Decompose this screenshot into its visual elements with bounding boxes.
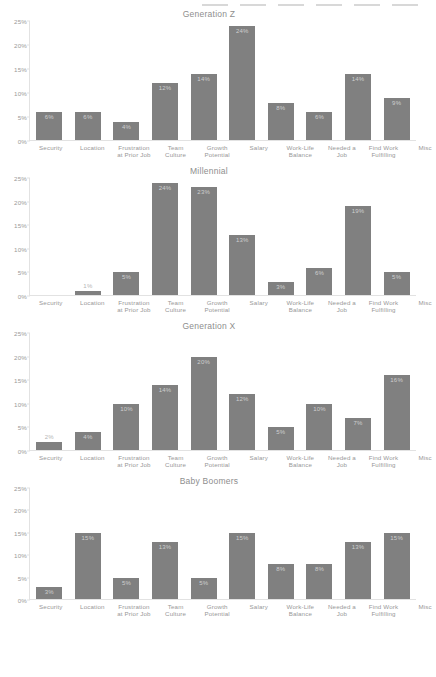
bar-slot: 6% [69,21,108,141]
x-axis-tick-label: Work-Life Balance [280,451,322,473]
bar-value-label: 2% [45,434,54,440]
bar[interactable]: 5% [191,578,217,600]
x-axis-tick-label: Work-Life Balance [280,141,322,163]
bar[interactable]: 15% [384,533,410,600]
bar-value-label: 1% [83,283,92,289]
bar-slot: 8% [262,488,301,600]
bar[interactable]: 20% [191,357,217,451]
y-axis-tick-label: 5% [18,424,27,431]
x-axis-tick-label: Growth Potential [196,451,238,473]
bar-value-label: 23% [197,189,210,195]
bar[interactable]: 5% [384,272,410,296]
chart-panel: Generation X0%5%10%15%20%25%2%4%10%14%20… [0,318,418,473]
bar[interactable]: 6% [36,112,62,141]
bar-value-label: 15% [82,535,95,541]
bar-value-label: 15% [390,535,403,541]
y-axis-tick-label: 5% [18,574,27,581]
bar-value-label: 7% [354,420,363,426]
bar[interactable]: 8% [268,564,294,600]
x-axis-tick-label: Security [30,141,72,163]
bar-slot: 5% [262,333,301,451]
x-axis-tick-label: Salary [238,451,280,473]
bar[interactable]: 3% [36,587,62,600]
bar[interactable]: 5% [113,578,139,600]
bar-slot: 10% [107,333,146,451]
x-axis-line [30,599,416,600]
bar[interactable]: 5% [113,272,139,296]
bar[interactable]: 23% [191,187,217,296]
bars-container: 2%4%10%14%20%12%5%10%7%16% [30,333,416,451]
y-axis-tick-label: 25% [14,18,27,25]
y-axis-tick-label: 15% [14,529,27,536]
x-axis-tick-label: Needed a Job [321,600,363,622]
bar[interactable]: 14% [345,74,371,141]
bar[interactable]: 15% [75,533,101,600]
chart-title: Generation X [0,318,418,333]
bar-value-label: 10% [313,406,326,412]
bar-value-label: 12% [236,396,249,402]
bar-value-label: 5% [122,274,131,280]
bar-slot: 20% [184,333,223,451]
bar-value-label: 20% [197,359,210,365]
bar[interactable]: 3% [268,282,294,296]
bar[interactable]: 12% [152,83,178,141]
x-axis-labels: SecurityLocationFrustration at Prior Job… [30,451,436,473]
bar[interactable]: 6% [75,112,101,141]
bar-value-label: 14% [197,76,210,82]
bar-slot: 6% [300,178,339,296]
bar-value-label: 13% [236,237,249,243]
bar-slot: 8% [300,488,339,600]
bar-slot: 19% [339,178,378,296]
x-axis-tick-label: Misc [404,296,436,318]
bars-container: 6%6%4%12%14%24%8%6%14%9% [30,21,416,141]
y-axis-tick-label: 0% [18,597,27,604]
y-axis-tick-label: 10% [14,245,27,252]
bar[interactable]: 10% [306,404,332,451]
bar[interactable]: 13% [229,235,255,296]
bar[interactable]: 16% [384,375,410,451]
bar[interactable]: 9% [384,98,410,141]
bar-slot: 13% [146,488,185,600]
bar[interactable]: 4% [113,122,139,141]
bar[interactable]: 6% [306,268,332,296]
bar[interactable]: 13% [152,542,178,600]
y-axis: 0%5%10%15%20%25% [0,333,30,451]
bar-slot [30,178,69,296]
bar[interactable]: 10% [113,404,139,451]
x-axis-tick-label: Work-Life Balance [280,600,322,622]
bar[interactable]: 24% [229,26,255,141]
bar-value-label: 5% [392,274,401,280]
bar[interactable]: 7% [345,418,371,451]
y-axis-tick-label: 5% [18,114,27,121]
bar[interactable]: 13% [345,542,371,600]
bar-value-label: 6% [83,114,92,120]
bar[interactable]: 4% [75,432,101,451]
bar[interactable]: 12% [229,394,255,451]
bar[interactable]: 14% [191,74,217,141]
bar-value-label: 6% [315,114,324,120]
bar-value-label: 6% [315,270,324,276]
bar[interactable]: 5% [268,427,294,451]
bar[interactable]: 15% [229,533,255,600]
x-axis-tick-label: Location [72,296,114,318]
bar-slot: 5% [107,178,146,296]
plot-area: 0%5%10%15%20%25%6%6%4%12%14%24%8%6%14%9% [0,21,418,141]
x-axis-tick-label: Find Work Fulfilling [363,451,405,473]
bar-value-label: 16% [390,377,403,383]
bar-value-label: 19% [352,208,365,214]
x-axis-tick-label: Misc [404,451,436,473]
bar[interactable]: 8% [268,103,294,141]
x-axis-tick-label: Salary [238,600,280,622]
bar-slot: 9% [377,21,416,141]
bar-value-label: 4% [83,434,92,440]
bar-slot: 13% [339,488,378,600]
bar[interactable]: 24% [152,183,178,296]
bar[interactable]: 14% [152,385,178,451]
x-axis-tick-label: Team Culture [155,451,197,473]
bar[interactable]: 6% [306,112,332,141]
bar-slot: 6% [300,21,339,141]
bar-value-label: 8% [276,566,285,572]
bar[interactable]: 8% [306,564,332,600]
bar[interactable]: 19% [345,206,371,296]
